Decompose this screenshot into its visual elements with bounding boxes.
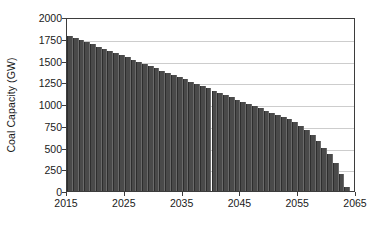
y-axis-tick-marks — [0, 18, 66, 192]
x-axis-tick-label: 2065 — [331, 196, 378, 210]
bar — [344, 187, 350, 191]
coal-capacity-bar-chart: Coal Capacity (GW) 025050075010001250150… — [0, 0, 378, 230]
x-axis-tick-label: 2025 — [100, 196, 148, 210]
x-axis-tick-label: 2055 — [273, 196, 321, 210]
x-axis-tick-label: 2015 — [42, 196, 90, 210]
x-axis-tick-labels: 201520252035204520552065 — [0, 196, 378, 212]
plot-area — [66, 18, 355, 192]
x-axis-tick-label: 2035 — [158, 196, 206, 210]
bar-series — [67, 19, 354, 191]
x-axis-tick-label: 2045 — [215, 196, 263, 210]
